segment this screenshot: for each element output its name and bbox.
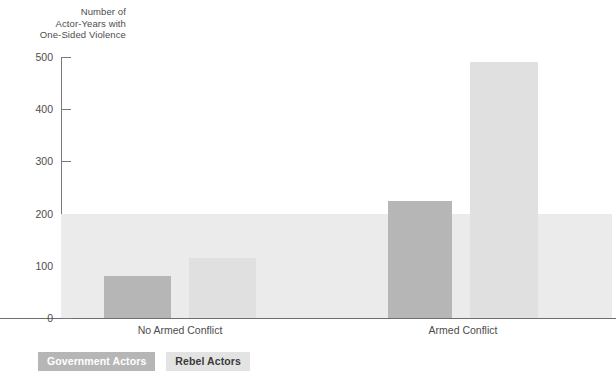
bar-armed-conflict-government	[388, 201, 452, 318]
y-tick-label-500: 500	[0, 52, 53, 62]
y-tick-label-400: 400	[0, 104, 53, 114]
plot-area	[61, 57, 612, 318]
y-tick-label-300: 300	[0, 156, 53, 166]
y-tick-label-100: 100	[0, 261, 53, 271]
x-axis-label-armed-conflict: Armed Conflict	[373, 324, 553, 336]
y-axis-title: Number of Actor-Years with One-Sided Vio…	[0, 6, 126, 41]
y-tick-label-200: 200	[0, 209, 53, 219]
bar-no-conflict-government	[104, 276, 171, 318]
legend: Government ActorsRebel Actors	[38, 352, 250, 371]
legend-item-rebel-actors[interactable]: Rebel Actors	[166, 352, 250, 371]
y-tick-mark-0	[62, 318, 71, 319]
x-axis-label-no-armed-conflict: No Armed Conflict	[90, 324, 270, 336]
bar-no-conflict-rebel	[189, 258, 256, 318]
legend-item-government-actors[interactable]: Government Actors	[38, 352, 155, 371]
x-axis-line	[0, 318, 616, 319]
bar-chart: Number of Actor-Years with One-Sided Vio…	[0, 0, 616, 385]
bar-armed-conflict-rebel	[470, 62, 538, 318]
y-tick-label-0: 0	[0, 313, 53, 323]
